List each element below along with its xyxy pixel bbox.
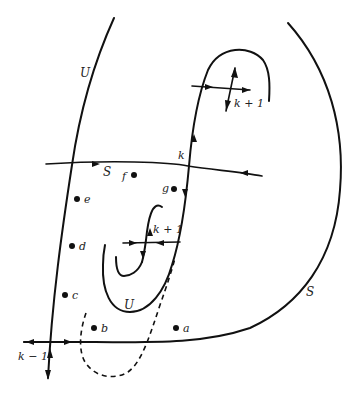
arrow-left-k-minus-1 <box>26 339 34 345</box>
label-d: d <box>79 240 86 253</box>
arrow-right-k-minus-1 <box>64 339 72 345</box>
point-f <box>131 172 137 178</box>
arrow-up-upper <box>231 67 238 78</box>
point-d <box>69 243 75 249</box>
label-k: k <box>178 149 185 162</box>
label-g: g <box>162 182 169 195</box>
diagram-svg: a b c d e f g U S S U k k + 1 k + 1 k − … <box>0 0 359 397</box>
label-u-bottom: U <box>124 298 135 312</box>
label-f: f <box>121 170 128 183</box>
phase-diagram: a b c d e f g U S S U k k + 1 k + 1 k − … <box>0 0 359 397</box>
arrow-down-upper <box>225 100 231 111</box>
label-s-mid: S <box>103 165 111 179</box>
point-e <box>74 196 80 202</box>
arrow-left-s-right <box>240 170 248 176</box>
point-c <box>62 292 68 298</box>
arrow-down-mid <box>140 251 146 259</box>
label-u-top: U <box>80 66 91 80</box>
label-k-minus-1: k − 1 <box>18 350 48 363</box>
arrow-up-k-minus-1 <box>47 348 53 358</box>
arrow-right-mid <box>129 240 137 246</box>
label-e: e <box>84 193 91 206</box>
label-c: c <box>72 289 78 302</box>
arrow-left-mid <box>156 240 164 246</box>
point-a <box>173 325 179 331</box>
u-loop-small <box>116 257 142 276</box>
label-k-plus-1-upper: k + 1 <box>234 97 264 110</box>
point-g <box>171 186 177 192</box>
arrow-right-upper-2 <box>242 87 250 93</box>
label-a: a <box>183 322 190 335</box>
label-k-plus-1-mid: k + 1 <box>153 223 183 236</box>
label-s-right: S <box>306 285 314 299</box>
arrow-right-upper-1 <box>205 84 213 90</box>
stable-line-k <box>46 162 262 176</box>
arrow-down-k-minus-1 <box>45 370 51 380</box>
label-b: b <box>101 322 108 335</box>
point-b <box>91 325 97 331</box>
